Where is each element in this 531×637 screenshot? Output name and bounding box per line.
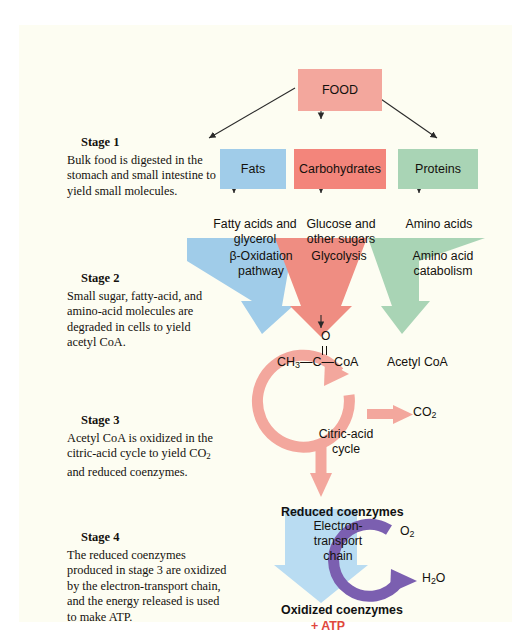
proteins-box: Proteins <box>398 149 478 189</box>
stage-3-body: Acetyl CoA is oxidized in the citric-aci… <box>67 431 217 480</box>
reduced-coenzymes-label: Reduced coenzymes <box>281 505 404 519</box>
co2-label: CO2 <box>413 405 463 422</box>
acetyl-coa-label: Acetyl CoA <box>387 355 477 370</box>
stage-2-heading: Stage 2 <box>81 271 217 286</box>
carbonyl-oxygen-label: O <box>321 329 330 343</box>
stage-1-block: Stage 1 Bulk food is digested in the sto… <box>67 135 217 199</box>
glucose-label: Glucose and other sugars <box>291 217 391 246</box>
double-bond-line-1 <box>322 346 323 355</box>
glycolysis-label: Glycolysis <box>295 249 383 264</box>
carbohydrates-box: Carbohydrates <box>294 149 386 189</box>
fatty-acids-label: Fatty acids and glycerol <box>205 217 305 246</box>
oxidized-coenzymes-label: Oxidized coenzymes <box>281 603 403 617</box>
acetyl-chain-formula: CH3—C—CoA <box>277 355 358 370</box>
stage-4-heading: Stage 4 <box>81 530 229 545</box>
food-label: FOOD <box>322 83 358 97</box>
stage-2-body: Small sugar, fatty-acid, and amino-acid … <box>67 289 217 351</box>
electron-transport-label: Electron-transport chain <box>301 519 375 564</box>
h2o-label: H2O <box>422 571 466 588</box>
figure-panel: FOOD Fats Carbohydrates Proteins Fatty a… <box>19 25 512 622</box>
atp-label: + ATP <box>311 619 345 633</box>
fats-box: Fats <box>220 149 286 189</box>
carbohydrates-label: Carbohydrates <box>299 162 381 176</box>
food-box: FOOD <box>298 69 382 111</box>
stage-1-heading: Stage 1 <box>81 135 217 150</box>
amino-acids-label: Amino acids <box>391 217 487 232</box>
acetyl-coa-structure: O CH3—C—CoA <box>277 331 387 375</box>
stage-4-body: The reduced coenzymes produced in stage … <box>67 548 229 625</box>
amino-catabolism-label: Amino acid catabolism <box>391 249 495 279</box>
stage-1-body: Bulk food is digested in the stomach and… <box>67 153 217 199</box>
fats-label: Fats <box>241 162 265 176</box>
o2-label: O2 <box>400 524 440 541</box>
double-bond-line-2 <box>326 346 327 355</box>
stage-4-block: Stage 4 The reduced coenzymes produced i… <box>67 530 229 625</box>
stage-3-heading: Stage 3 <box>81 413 217 428</box>
stage-3-block: Stage 3 Acetyl CoA is oxidized in the ci… <box>67 413 217 480</box>
proteins-label: Proteins <box>415 162 461 176</box>
citric-acid-cycle-label: Citric-acid cycle <box>307 427 385 456</box>
stage-2-block: Stage 2 Small sugar, fatty-acid, and ami… <box>67 271 217 351</box>
